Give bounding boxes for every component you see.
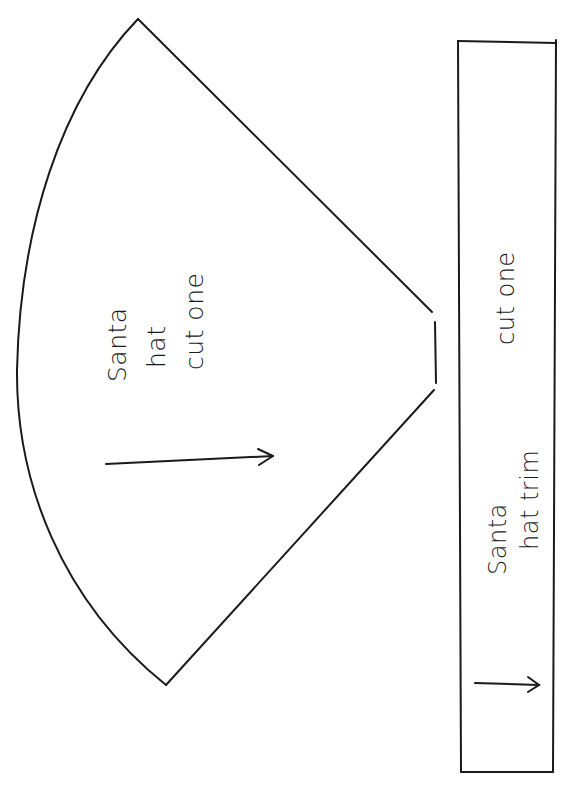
arrow-right-icon [475,677,539,692]
hat-outline-top-edge [138,19,432,312]
hat-outline-bottom-edge [166,390,434,685]
hat-pattern-piece [17,19,436,685]
hat-label-santa: Santa [103,307,132,382]
trim-label-hat-trim: hat trim [516,450,544,550]
hat-label-hat: hat [142,326,171,368]
pattern-canvas [0,0,574,812]
arrow-right-icon [106,449,273,465]
trim-outline-top [458,41,556,43]
hat-outline-tip [435,322,436,383]
trim-label-santa: Santa [484,503,512,575]
trim-pattern-piece [458,40,556,772]
trim-outline-left [458,41,461,772]
trim-label-cut-one: cut one [492,251,520,345]
trim-outline-right [553,40,556,772]
hat-label-cut-one: cut one [180,273,209,370]
